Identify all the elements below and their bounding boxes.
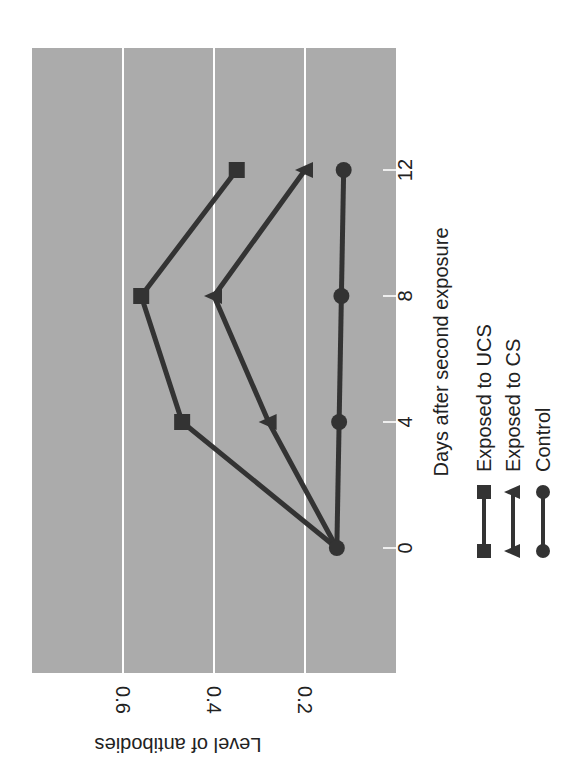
y-axis-title: Level of antibodies <box>95 734 262 756</box>
circle-marker-icon <box>331 414 347 430</box>
legend-item: Exposed to UCS <box>473 324 495 558</box>
square-marker-icon <box>229 162 245 178</box>
square-marker-icon <box>133 288 149 304</box>
square-marker-icon <box>477 485 491 499</box>
y-tick-label: 0.4 <box>203 686 225 714</box>
circle-marker-icon <box>336 162 352 178</box>
legend-label: Exposed to CS <box>502 339 524 472</box>
square-marker-icon <box>477 544 491 558</box>
circle-marker-icon <box>329 540 345 556</box>
circle-marker-icon <box>333 288 349 304</box>
legend-item: Exposed to CS <box>502 339 524 558</box>
x-axis-title: Days after second exposure <box>430 227 452 476</box>
square-marker-icon <box>174 414 190 430</box>
y-tick-label: 0.2 <box>294 686 316 714</box>
legend: Exposed to UCSExposed to CSControl <box>473 324 554 558</box>
legend-label: Exposed to UCS <box>473 324 495 472</box>
x-tick-label: 0 <box>394 542 416 553</box>
x-tick-label: 4 <box>394 416 416 427</box>
x-tick-label: 8 <box>394 290 416 301</box>
legend-item: Control <box>532 408 554 558</box>
y-tick-label: 0.6 <box>112 686 134 714</box>
legend-label: Control <box>532 408 554 472</box>
antibody-level-chart: 04812 0.20.40.6 Days after second exposu… <box>0 0 584 774</box>
x-tick-label: 12 <box>394 159 416 181</box>
y-axis-tick-labels: 0.20.40.6 <box>112 686 316 714</box>
circle-marker-icon <box>536 544 550 558</box>
circle-marker-icon <box>536 485 550 499</box>
